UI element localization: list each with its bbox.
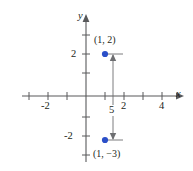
data-point-lower — [102, 137, 108, 143]
distance-label: 5 — [108, 105, 115, 116]
x-axis — [22, 92, 184, 100]
y-axis — [82, 14, 90, 162]
figure-canvas — [0, 0, 193, 171]
point-label-1-neg3: (1, −3) — [93, 149, 120, 159]
x-tick-label-neg2: -2 — [41, 101, 50, 112]
coordinate-plane-figure: x y -2 2 4 2 -2 (1, 2) (1, −3) 5 — [0, 0, 193, 171]
data-point-upper — [102, 51, 108, 57]
y-tick-label-neg2: -2 — [64, 131, 73, 142]
y-tick-label-2: 2 — [71, 49, 76, 60]
y-axis-label: y — [78, 11, 83, 22]
x-axis-label: x — [176, 89, 181, 100]
x-tick-label-4: 4 — [159, 101, 164, 112]
distance-dimension-line — [105, 54, 123, 140]
point-label-1-2: (1, 2) — [94, 35, 116, 45]
x-tick-label-2: 2 — [121, 101, 126, 112]
